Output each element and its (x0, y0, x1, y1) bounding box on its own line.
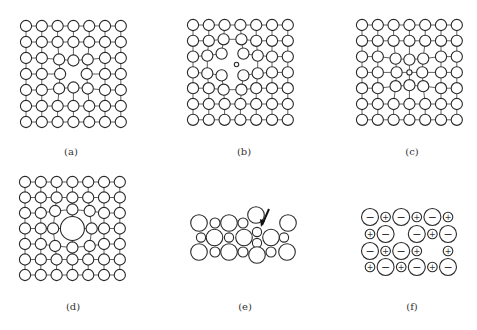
lattice-atom (187, 19, 198, 30)
lattice-atom (84, 20, 95, 31)
panel-label-e: (e) (238, 301, 252, 312)
lattice-atom (20, 20, 31, 31)
lattice-atom (390, 81, 401, 92)
lattice-atom (251, 19, 262, 30)
lattice-atom (99, 100, 110, 111)
small-ion (224, 233, 233, 242)
lattice-atom (372, 67, 383, 78)
lattice-atom (187, 98, 198, 109)
lattice-atom (187, 67, 198, 78)
lattice-atom (67, 269, 78, 280)
lattice-atom (266, 51, 277, 62)
lattice-atom (418, 81, 429, 92)
lattice-atom (20, 36, 31, 47)
lattice-atom (451, 51, 462, 62)
lattice-atom (98, 176, 109, 187)
lattice-atom (282, 19, 293, 30)
lattice-atom (67, 242, 78, 253)
plus-sign: + (413, 213, 420, 222)
lattice-atom (388, 98, 399, 109)
large-ion (236, 229, 253, 246)
lattice-atom (67, 176, 78, 187)
lattice-atom (282, 51, 293, 62)
lattice-atom (98, 238, 109, 249)
plus-sign: + (413, 247, 420, 256)
lattice-atom (203, 19, 214, 30)
lattice-atom (251, 83, 262, 94)
lattice-atom (83, 254, 94, 265)
small-ion (196, 233, 205, 242)
panel-a-vacancy (20, 20, 126, 127)
plus-sign: + (445, 247, 452, 256)
lattice-atom (52, 20, 63, 31)
lattice-atom (202, 68, 213, 79)
lattice-atom (420, 19, 431, 30)
lattice-atom (19, 192, 30, 203)
lattice-atom (420, 35, 431, 46)
lattice-atom (114, 238, 125, 249)
lattice-atom (218, 84, 229, 95)
minus-sign: − (365, 245, 374, 258)
lattice-atom (114, 254, 125, 265)
lattice-atom (98, 223, 109, 234)
lattice-atom (84, 205, 95, 216)
lattice-atom (451, 98, 462, 109)
lattice-atom (187, 35, 198, 46)
lattice-atom (388, 35, 399, 46)
lattice-atom (35, 269, 46, 280)
minus-sign: − (412, 261, 421, 274)
lattice-atom (114, 269, 125, 280)
lattice-atom (115, 68, 126, 79)
lattice-atom (282, 98, 293, 109)
lattice-atom (19, 269, 30, 280)
lattice-atom (435, 114, 446, 125)
lattice-atom (36, 116, 47, 127)
lattice-atom (83, 269, 94, 280)
lattice-atom (115, 20, 126, 31)
lattice-atom (235, 19, 246, 30)
lattice-atom (236, 34, 247, 45)
lattice-atom (68, 116, 79, 127)
defect-diagrams: −+−+−++−−+−−+−+++−+−+− (0, 0, 477, 330)
crystal-defects-figure: −+−+−++−−+−−+−+++−+−+− (a) (b) (c) (d) (… (0, 0, 477, 330)
plus-sign: + (429, 230, 436, 239)
lattice-atom (115, 116, 126, 127)
lattice-atom (282, 35, 293, 46)
lattice-atom (203, 98, 214, 109)
lattice-atom (372, 114, 383, 125)
lattice-atom (218, 34, 229, 45)
lattice-atom (356, 114, 367, 125)
lattice-atom (388, 19, 399, 30)
lattice-atom (372, 83, 383, 94)
lattice-atom (404, 80, 415, 91)
large-ion (280, 215, 297, 232)
lattice-atom (417, 67, 428, 78)
lattice-atom (114, 223, 125, 234)
minus-sign: − (428, 211, 437, 224)
lattice-atom (67, 192, 78, 203)
lattice-atom (404, 54, 415, 65)
lattice-atom (266, 114, 277, 125)
lattice-atom (391, 67, 402, 78)
small-ion (266, 247, 276, 257)
lattice-atom (251, 98, 262, 109)
lattice-atom (83, 192, 94, 203)
lattice-atom (356, 51, 367, 62)
plus-sign: + (429, 263, 436, 272)
panel-b-interstitial (187, 19, 293, 125)
lattice-atom (114, 207, 125, 218)
lattice-atom (404, 35, 415, 46)
minus-sign: − (397, 245, 406, 258)
lattice-atom (82, 54, 93, 65)
lattice-atom (84, 240, 95, 251)
lattice-atom (114, 176, 125, 187)
lattice-atom (435, 35, 446, 46)
panel-label-a: (a) (64, 146, 78, 157)
lattice-atom (216, 48, 227, 59)
lattice-atom (51, 192, 62, 203)
minus-sign: − (443, 228, 452, 241)
lattice-atom (36, 100, 47, 111)
lattice-atom (356, 67, 367, 78)
lattice-atom (98, 192, 109, 203)
lattice-atom (51, 176, 62, 187)
